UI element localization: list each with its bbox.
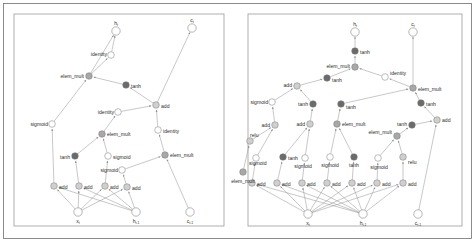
node-label-add: add	[161, 103, 170, 109]
node-add[interactable]	[299, 180, 306, 187]
node-elem-mult[interactable]	[162, 152, 169, 159]
node-label-elem-mult: elem_mult	[107, 131, 131, 137]
node-add[interactable]	[76, 183, 83, 190]
node-sigmoid[interactable]	[49, 121, 56, 128]
node-label-elem-mult: elem_mult	[170, 152, 194, 158]
node-sigmoid[interactable]	[105, 153, 112, 160]
node-label-add: add	[84, 184, 93, 190]
node-label-tanh: tanh	[346, 104, 356, 110]
node-relu[interactable]	[247, 138, 254, 145]
node-tanh[interactable]	[280, 154, 287, 161]
node-identity[interactable]	[108, 52, 115, 59]
node-add[interactable]	[307, 121, 314, 128]
node-sigmoid[interactable]	[375, 155, 382, 162]
node-elem-mult[interactable]	[99, 131, 106, 138]
io-node-label-c_t: ct	[411, 21, 415, 28]
node-elem-mult[interactable]	[394, 133, 401, 140]
edge-R_tanh_5-to-R_elem_mult_right	[415, 92, 419, 100]
io-node-c_t[interactable]	[188, 24, 196, 32]
node-label-sigmoid: sigmoid	[370, 164, 388, 170]
edge-R_sigmoid_4-to-R_elem_mult_low	[380, 140, 394, 156]
node-tanh[interactable]	[338, 101, 345, 108]
io-node-x_t[interactable]	[74, 208, 82, 216]
left-graph-edges	[52, 33, 190, 211]
node-label-tanh: tanh	[332, 77, 342, 83]
io-node-h_t-1[interactable]	[132, 208, 140, 216]
node-add[interactable]	[102, 183, 109, 190]
node-add[interactable]	[324, 180, 331, 187]
node-add[interactable]	[374, 180, 381, 187]
node-add[interactable]	[274, 180, 281, 187]
io-node-x_t[interactable]	[304, 210, 312, 218]
io-node-label-c_t-1: ct-1	[187, 218, 194, 225]
edge-R_relu_right-to-R_elem_mult_low	[398, 141, 402, 154]
edge-R_ctm1-to-R_add_r1	[419, 125, 436, 211]
edge-L_add_1-to-L_sigmoid_left	[52, 129, 54, 183]
node-label-sigmoid: sigmoid	[250, 99, 268, 105]
node-add[interactable]	[124, 184, 131, 191]
edge-L_elem_mult_top-to-L_identity_top	[91, 58, 107, 73]
io-node-h_t[interactable]	[351, 28, 359, 36]
node-sigmoid[interactable]	[302, 155, 309, 162]
node-add[interactable]	[153, 102, 160, 109]
node-tanh[interactable]	[351, 154, 358, 161]
node-elem-mult[interactable]	[352, 64, 359, 71]
io-node-label-h_t-1: ht-1	[133, 218, 140, 225]
node-tanh[interactable]	[352, 48, 359, 55]
edge-L_ctm1-to-L_elem_mult_3	[167, 160, 189, 209]
node-label-elem-mult: elem_mult	[342, 121, 366, 127]
node-add[interactable]	[294, 83, 301, 90]
edge-L_xt-to-L_add_4	[81, 189, 123, 210]
node-label-sigmoid: sigmoid	[321, 162, 339, 168]
edge-R_tanh_7-to-R_add_l2	[285, 128, 307, 154]
io-node-h_t-1[interactable]	[359, 210, 367, 218]
node-elem-mult[interactable]	[240, 169, 247, 176]
node-label-relu: relu	[408, 159, 417, 165]
edge-R_tanh_8-to-R_elem_mult_mid	[339, 128, 352, 154]
edge-R_add_l1-to-R_sigmoid_far_left	[273, 107, 275, 122]
edge-L_htm1-to-L_add_3	[109, 189, 134, 210]
node-tanh[interactable]	[310, 101, 317, 108]
node-sigmoid[interactable]	[269, 99, 276, 106]
node-sigmoid[interactable]	[327, 154, 334, 161]
io-node-c_t-1[interactable]	[186, 208, 194, 216]
node-sigmoid[interactable]	[119, 167, 126, 174]
node-identity[interactable]	[115, 109, 122, 116]
edge-L_identity_mid-to-L_add_mid	[121, 106, 151, 111]
edge-R_elem_mult_mid-to-R_tanh_4	[338, 109, 340, 121]
node-tanh[interactable]	[324, 75, 331, 82]
node-add[interactable]	[349, 180, 356, 187]
node-identity[interactable]	[155, 127, 162, 134]
node-elem-mult[interactable]	[410, 85, 417, 92]
edge-R_xt-to-R_add_3	[303, 188, 307, 211]
edge-R_elem_mult_right-to-R_identity	[390, 79, 410, 87]
node-tanh[interactable]	[409, 122, 416, 129]
node-add[interactable]	[272, 122, 279, 129]
edge-L_add_mid-to-L_ct	[157, 33, 189, 102]
edge-R_htm1-to-R_add_3	[306, 185, 360, 212]
node-tanh[interactable]	[418, 100, 425, 107]
io-node-h_t[interactable]	[112, 27, 120, 35]
node-tanh[interactable]	[72, 153, 79, 160]
recurrent-cell-graph-figure: identityelem_multtanhaddidentitysigmoidi…	[0, 0, 475, 242]
node-label-elem-mult: elem_mult	[327, 63, 351, 69]
io-node-c_t[interactable]	[409, 28, 417, 36]
node-elem-mult[interactable]	[334, 121, 341, 128]
edge-L_xt-to-L_add_3	[80, 189, 101, 209]
node-label-identity: identity	[91, 51, 108, 57]
node-label-add: add	[110, 184, 119, 190]
node-add[interactable]	[400, 180, 407, 187]
node-label-add: add	[297, 121, 306, 127]
node-add[interactable]	[51, 183, 58, 190]
node-label-tanh: tanh	[360, 49, 370, 55]
node-label-add: add	[408, 181, 417, 187]
node-elem-mult[interactable]	[86, 73, 93, 80]
node-label-elem-mult: elem_mult	[61, 73, 85, 79]
io-node-c_t-1[interactable]	[414, 210, 422, 218]
node-label-add: add	[284, 82, 293, 88]
node-relu[interactable]	[400, 154, 407, 161]
right-graph: tanhelem_multidentitytanhaddelem_multsig…	[231, 14, 462, 227]
node-add[interactable]	[434, 117, 441, 124]
node-identity[interactable]	[382, 74, 389, 81]
node-tanh[interactable]	[123, 82, 130, 89]
